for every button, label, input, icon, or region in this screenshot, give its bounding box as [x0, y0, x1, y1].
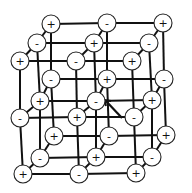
anion-ion: -: [31, 149, 49, 167]
crystal-lattice-diagram: +-+-+-+-+-+-+-+-+-+-+-+-+-+: [0, 0, 192, 193]
cation-ion: +: [42, 15, 60, 33]
cation-ion: +: [143, 91, 161, 109]
cation-ion: +: [31, 92, 49, 110]
plus-sign-icon: +: [161, 129, 170, 142]
cation-ion: +: [87, 148, 105, 166]
anion-ion: -: [155, 70, 173, 88]
plus-sign-icon: +: [131, 167, 140, 180]
minus-sign-icon: -: [162, 73, 166, 86]
cation-ion: +: [11, 52, 29, 70]
minus-sign-icon: -: [35, 37, 39, 50]
anion-ion: -: [100, 127, 118, 145]
minus-sign-icon: -: [38, 152, 42, 165]
cation-ion: +: [98, 70, 116, 88]
plus-sign-icon: +: [72, 111, 81, 124]
plus-sign-icon: +: [102, 73, 111, 86]
plus-sign-icon: +: [46, 18, 55, 31]
anion-ion: -: [98, 14, 116, 32]
cation-ion: +: [45, 127, 63, 145]
plus-sign-icon: +: [89, 37, 98, 50]
minus-sign-icon: -: [49, 73, 53, 86]
minus-sign-icon: -: [77, 168, 81, 181]
plus-sign-icon: +: [18, 168, 27, 181]
lattice-ions: +-+-+-+-+-+-+-+-+-+-+-+-+-+: [11, 14, 175, 183]
cation-ion: +: [127, 164, 145, 182]
anion-ion: -: [143, 148, 161, 166]
plus-sign-icon: +: [147, 94, 156, 107]
anion-ion: -: [140, 34, 158, 52]
minus-sign-icon: -: [94, 95, 98, 108]
plus-sign-icon: +: [15, 55, 24, 68]
plus-sign-icon: +: [127, 55, 136, 68]
minus-sign-icon: -: [74, 55, 78, 68]
cation-ion: +: [14, 165, 32, 183]
anion-ion: -: [42, 70, 60, 88]
anion-ion: -: [67, 52, 85, 70]
cation-ion: +: [68, 108, 86, 126]
cation-ion: +: [157, 126, 175, 144]
minus-sign-icon: -: [147, 37, 151, 50]
anion-ion: -: [11, 109, 29, 127]
plus-sign-icon: +: [49, 130, 58, 143]
minus-sign-icon: -: [105, 17, 109, 30]
minus-sign-icon: -: [18, 112, 22, 125]
cation-ion: +: [85, 34, 103, 52]
anion-ion: -: [125, 108, 143, 126]
lattice-canvas: +-+-+-+-+-+-+-+-+-+-+-+-+-+: [0, 0, 192, 193]
anion-ion: -: [70, 165, 88, 183]
cation-ion: +: [154, 14, 172, 32]
plus-sign-icon: +: [158, 17, 167, 30]
plus-sign-icon: +: [35, 95, 44, 108]
minus-sign-icon: -: [150, 151, 154, 164]
minus-sign-icon: -: [132, 111, 136, 124]
anion-ion: -: [87, 92, 105, 110]
minus-sign-icon: -: [107, 130, 111, 143]
plus-sign-icon: +: [91, 151, 100, 164]
anion-ion: -: [28, 34, 46, 52]
cation-ion: +: [123, 52, 141, 70]
